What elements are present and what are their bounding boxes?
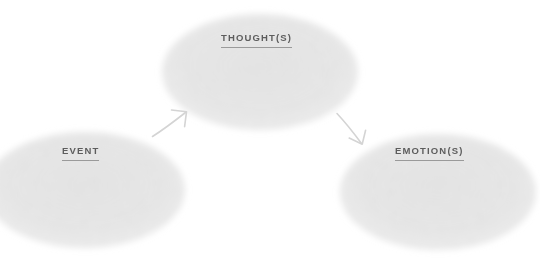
node-label-event: EVENT (62, 146, 99, 161)
diagram-canvas: EVENT THOUGHT(S) EMOTION(S) (0, 0, 540, 265)
node-label-emotion: EMOTION(S) (395, 146, 464, 161)
node-label-thought: THOUGHT(S) (221, 33, 292, 48)
